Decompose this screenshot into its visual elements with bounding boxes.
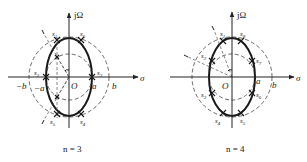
caption-n4: n = 4 bbox=[226, 144, 245, 154]
jomega-label: jΩ bbox=[236, 10, 247, 20]
pos-a-label: a bbox=[256, 76, 261, 86]
label-s7: s7 bbox=[256, 57, 262, 66]
tick-ray-2 bbox=[184, 55, 188, 57]
neg-b-label: −b bbox=[16, 81, 27, 91]
label-s5: s5 bbox=[50, 118, 56, 127]
label-s4: s4 bbox=[215, 117, 221, 126]
panel-n3: jΩ σ O −b −a a b s1 s6 s2 s3 s5 s4 n = 3 bbox=[8, 10, 145, 154]
label-s1: s1 bbox=[220, 30, 225, 39]
origin-label: O bbox=[71, 81, 78, 91]
label-s6: s6 bbox=[80, 30, 86, 39]
sigma-label: σ bbox=[296, 73, 301, 83]
label-s6: s6 bbox=[256, 91, 262, 100]
pole-diagram: jΩ σ O −b −a a b s1 s6 s2 s3 s5 s4 n = 3 bbox=[0, 0, 307, 162]
angle-arc bbox=[65, 70, 69, 71]
pole-s8 bbox=[238, 38, 244, 44]
pos-b-label: b bbox=[272, 80, 277, 90]
label-s8: s8 bbox=[240, 30, 246, 39]
pole-s4 bbox=[220, 110, 226, 116]
pole-s5 bbox=[54, 111, 60, 117]
pole-s1 bbox=[220, 38, 226, 44]
tick-lower bbox=[42, 120, 44, 124]
pos-a-label: a bbox=[92, 81, 97, 91]
caption-n3: n = 3 bbox=[63, 144, 82, 154]
jomega-label: jΩ bbox=[73, 10, 84, 20]
label-s2: s2 bbox=[201, 52, 207, 61]
construction-line-inner-lower bbox=[57, 77, 69, 97]
tick-ray-1 bbox=[212, 26, 214, 30]
pole-s5 bbox=[238, 110, 244, 116]
origin-label: O bbox=[222, 81, 229, 91]
label-s2: s2 bbox=[34, 69, 40, 78]
label-s3: s3 bbox=[97, 69, 103, 78]
label-s3: s3 bbox=[201, 91, 207, 100]
panel-n4: jΩ σ O a b s1 s8 s2 s7 s3 s6 s4 s5 n = 4 bbox=[170, 10, 301, 154]
pole-s4 bbox=[78, 111, 84, 117]
sigma-label: σ bbox=[140, 73, 145, 83]
tick-upper bbox=[42, 30, 44, 34]
construction-line-inner bbox=[57, 57, 69, 77]
label-s4: s4 bbox=[80, 118, 86, 127]
neg-a-label: −a bbox=[34, 83, 45, 93]
pos-b-label: b bbox=[112, 81, 117, 91]
label-s5: s5 bbox=[240, 117, 246, 126]
label-s1: s1 bbox=[52, 30, 57, 39]
